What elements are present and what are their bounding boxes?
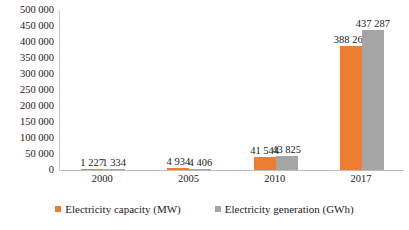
plot-area: 1 2271 3344 9344 40641 54443 825388 2684… [59, 10, 404, 171]
x-axis: 2000200520102017 [59, 173, 404, 189]
bar-column: 43 825 [276, 10, 298, 170]
y-axis: 500 000450 000400 000350 000300 000250 0… [0, 10, 58, 171]
x-axis-tick-label: 2005 [178, 173, 199, 185]
x-axis-tick-label: 2010 [264, 173, 285, 185]
bar-column: 1 334 [103, 10, 125, 170]
bar-generation [276, 156, 298, 170]
chart-legend: Electricity capacity (MW)Electricity gen… [0, 203, 409, 215]
bar-capacity [167, 168, 189, 170]
bar-group: 1 2271 334 [60, 10, 146, 170]
bar-value-label: 437 287 [356, 18, 390, 29]
bar-column: 4 934 [167, 10, 189, 170]
bar-generation [189, 169, 211, 170]
y-axis-tick-label: 50 000 [25, 149, 54, 159]
legend-swatch-icon [215, 206, 221, 212]
bar-group: 41 54443 825 [233, 10, 319, 170]
y-axis-tick-label: 450 000 [20, 21, 54, 31]
bar-group: 388 268437 287 [319, 10, 405, 170]
bar-generation [362, 30, 384, 170]
legend-label: Electricity generation (GWh) [225, 203, 354, 215]
y-axis-tick-label: 500 000 [20, 5, 54, 15]
bar-generation [103, 169, 125, 170]
bar-value-label: 4 406 [189, 157, 213, 168]
bar-capacity [81, 169, 103, 170]
x-axis-tick-label: 2017 [350, 173, 371, 185]
bar-value-label: 43 825 [272, 144, 301, 155]
y-axis-tick-label: 400 000 [20, 37, 54, 47]
y-axis-tick-label: 0 [49, 165, 54, 175]
bar-value-label: 4 934 [167, 156, 191, 167]
bar-capacity [254, 157, 276, 170]
y-axis-tick-label: 100 000 [20, 133, 54, 143]
bar-column: 437 287 [362, 10, 384, 170]
y-axis-tick-label: 350 000 [20, 53, 54, 63]
legend-item[interactable]: Electricity generation (GWh) [215, 203, 354, 215]
y-axis-tick-label: 300 000 [20, 69, 54, 79]
legend-item[interactable]: Electricity capacity (MW) [55, 203, 180, 215]
bar-column: 4 406 [189, 10, 211, 170]
bar-value-label: 1 334 [102, 157, 126, 168]
y-axis-tick-label: 150 000 [20, 117, 54, 127]
bar-capacity [340, 46, 362, 170]
bar-column: 1 227 [81, 10, 103, 170]
bar-value-label: 1 227 [80, 157, 104, 168]
bar-group: 4 9344 406 [146, 10, 232, 170]
bar-chart: 500 000450 000400 000350 000300 000250 0… [0, 0, 409, 230]
x-axis-tick-label: 2000 [92, 173, 113, 185]
y-axis-tick-label: 200 000 [20, 101, 54, 111]
legend-label: Electricity capacity (MW) [65, 203, 180, 215]
y-axis-tick-label: 250 000 [20, 85, 54, 95]
bar-column: 388 268 [340, 10, 362, 170]
legend-swatch-icon [55, 206, 61, 212]
